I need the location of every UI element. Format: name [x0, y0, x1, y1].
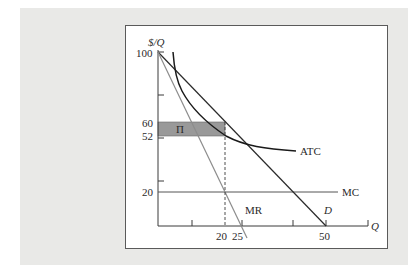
- profit-label: Π: [176, 123, 184, 135]
- x-label-25: 25: [232, 230, 244, 242]
- mr-label: MR: [245, 204, 263, 216]
- x-axis-label: Q: [371, 220, 379, 232]
- chart-canvas: Π $/Q 100 60 52 20 20 25 50 Q ATC MC MR …: [0, 0, 408, 271]
- mr-curve: [158, 52, 247, 238]
- x-label-50: 50: [319, 230, 331, 242]
- mc-label: MC: [342, 186, 359, 198]
- y-label-52: 52: [142, 130, 153, 142]
- demand-curve: [158, 52, 326, 226]
- y-label-100: 100: [136, 47, 153, 59]
- y-label-60: 60: [142, 117, 154, 129]
- x-label-20: 20: [216, 230, 228, 242]
- demand-label: D: [323, 204, 332, 216]
- atc-label: ATC: [300, 145, 321, 157]
- y-label-20: 20: [142, 186, 154, 198]
